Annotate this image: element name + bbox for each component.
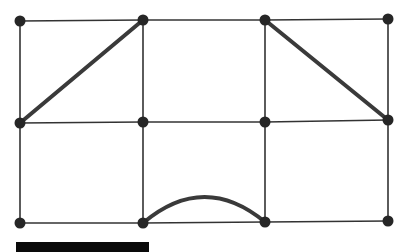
node xyxy=(260,117,271,128)
node xyxy=(138,117,149,128)
node xyxy=(383,115,394,126)
node xyxy=(138,218,149,229)
scale-bar xyxy=(16,242,149,252)
diagonal-edge xyxy=(265,20,388,120)
diagonal-edges xyxy=(20,20,388,123)
node xyxy=(260,15,271,26)
edge xyxy=(265,221,388,222)
grid-edges xyxy=(20,19,388,223)
edge xyxy=(20,20,143,21)
node xyxy=(15,218,26,229)
diagonal-edge xyxy=(20,20,143,123)
node xyxy=(260,217,271,228)
node xyxy=(15,16,26,27)
node xyxy=(383,216,394,227)
edge xyxy=(20,122,143,123)
edge xyxy=(265,19,388,20)
node xyxy=(15,118,26,129)
arc-edge xyxy=(143,197,265,223)
arc-edges xyxy=(143,197,265,223)
edge xyxy=(265,120,388,122)
node xyxy=(138,15,149,26)
node xyxy=(383,14,394,25)
edge xyxy=(143,222,265,223)
